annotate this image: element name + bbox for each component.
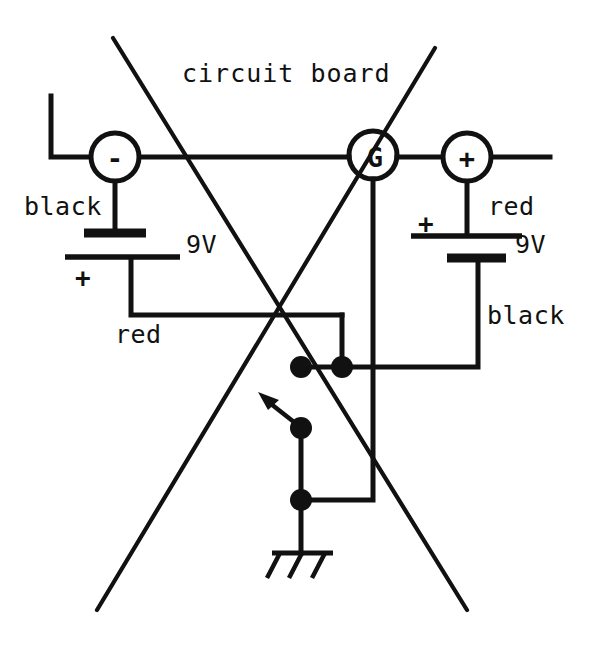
circuit-diagram-canvas: circuit board 9V + black red 9V + bbox=[0, 0, 604, 646]
minus-terminal-label: - bbox=[107, 143, 123, 174]
ground-leg-2 bbox=[289, 553, 302, 578]
left-battery-voltage-label: 9V bbox=[186, 230, 217, 259]
junction-dot-red-node bbox=[290, 356, 312, 378]
left-battery-bottom-lead bbox=[131, 259, 342, 315]
junction-dot-ground-node bbox=[290, 489, 312, 511]
right-battery-black-lead-label: black bbox=[487, 301, 565, 330]
left-battery-group: 9V + black red bbox=[24, 181, 342, 349]
left-battery-red-lead-label: red bbox=[115, 320, 162, 349]
diagram-title: circuit board bbox=[182, 59, 391, 88]
junction-dot-switch-pivot bbox=[290, 417, 312, 439]
right-battery-polarity-symbol: + bbox=[418, 209, 434, 239]
terminal-g[interactable]: G bbox=[349, 131, 397, 179]
ground-leg-3 bbox=[312, 553, 325, 578]
strikethrough-line-a bbox=[113, 38, 467, 610]
right-battery-group: 9V + red black bbox=[344, 181, 565, 367]
chassis-ground-symbol bbox=[267, 500, 333, 578]
g-to-ground-wire bbox=[303, 179, 373, 500]
terminal-plus[interactable]: + bbox=[443, 133, 491, 181]
right-battery-red-lead-label: red bbox=[488, 192, 535, 221]
junction-dot-black-node bbox=[331, 356, 353, 378]
left-battery-polarity-symbol: + bbox=[75, 263, 91, 293]
right-battery-bottom-lead bbox=[344, 258, 478, 367]
left-battery-black-lead-label: black bbox=[24, 192, 102, 221]
circuit-schematic: circuit board 9V + black red 9V + bbox=[0, 0, 604, 646]
g-terminal-drop-wiring bbox=[303, 179, 373, 500]
g-terminal-label: G bbox=[367, 142, 383, 173]
terminal-minus[interactable]: - bbox=[91, 133, 139, 181]
ground-leg-1 bbox=[267, 553, 280, 578]
left-open-lead-wire bbox=[51, 96, 91, 157]
plus-terminal-label: + bbox=[459, 143, 475, 174]
right-battery-voltage-label: 9V bbox=[515, 230, 546, 259]
